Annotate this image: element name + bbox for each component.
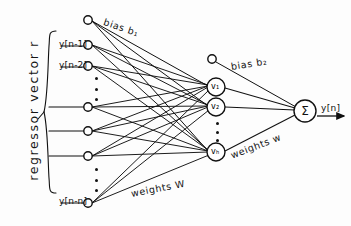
regressor-brace bbox=[38, 31, 56, 193]
hidden-node-label-v1: v₁ bbox=[211, 82, 220, 91]
input-ellipsis-lower bbox=[95, 168, 98, 192]
output-signal-label: y[n] bbox=[321, 103, 340, 113]
input-ellipsis-upper bbox=[95, 77, 98, 101]
sigma-symbol: Σ bbox=[301, 104, 309, 118]
regressor-vector-caption: regressor vector r bbox=[26, 31, 41, 191]
input-node-3 bbox=[84, 103, 92, 111]
hidden-node-label-v2: v₂ bbox=[211, 102, 220, 111]
input-tap-label-1: y[n-1] bbox=[59, 39, 87, 49]
network-diagram-canvas: Σ regressor vector r y[n-1] y[n-2] y[n-n… bbox=[0, 0, 351, 226]
input-tap-label-2: y[n-2] bbox=[59, 60, 87, 70]
input-tap-label-n: y[n-n] bbox=[59, 196, 87, 206]
input-node-5 bbox=[84, 152, 92, 160]
output-node: Σ bbox=[294, 100, 316, 122]
bias2-connection bbox=[216, 62, 296, 107]
input-bias-node bbox=[84, 16, 92, 24]
hidden-node-label-vh: vₕ bbox=[211, 147, 220, 156]
hidden-ellipsis bbox=[216, 122, 219, 142]
input-node-4 bbox=[84, 127, 92, 135]
hidden-bias-node bbox=[208, 55, 216, 63]
input-hidden-weights bbox=[92, 45, 209, 203]
network-graphics: Σ bbox=[0, 0, 351, 226]
